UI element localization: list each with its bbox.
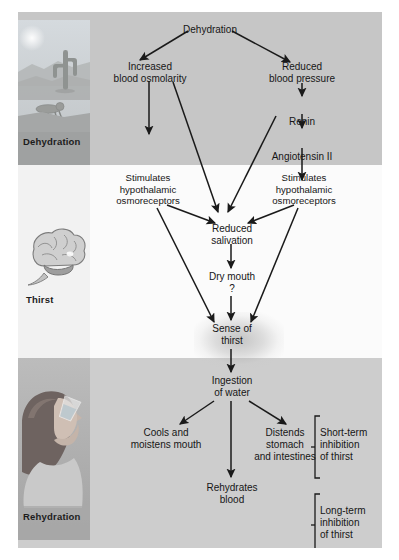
node-distends-stomach: Distends stomach and intestines	[248, 427, 322, 463]
node-ingestion-of-water: Ingestion of water	[196, 375, 268, 399]
node-sense-of-thirst: Sense of thirst	[196, 323, 268, 347]
note-long-term-inhibition: Long-term inhibition of thirst	[320, 505, 382, 541]
node-angiotensin-ii: Angiotensin II	[258, 151, 346, 163]
node-rehydrates-blood: Rehydrates blood	[188, 482, 276, 506]
node-stimulates-osmoreceptors-right: Stimulates hypothalamic osmoreceptors	[252, 172, 356, 207]
node-dry-mouth-question: ?	[196, 283, 268, 295]
node-dehydration: Dehydration	[175, 24, 245, 36]
note-short-term-inhibition: Short-term inhibition of thirst	[320, 427, 382, 463]
node-increased-osmolarity: Increased blood osmolarity	[96, 61, 204, 85]
node-renin: Renin	[272, 116, 332, 128]
node-cools-moistens-mouth: Cools and moistens mouth	[110, 427, 222, 451]
flow-diagram-figure: Dehydration Thirst	[18, 12, 382, 548]
node-stimulates-osmoreceptors-left: Stimulates hypothalamic osmoreceptors	[96, 172, 200, 207]
node-dry-mouth: Dry mouth	[196, 271, 268, 283]
node-reduced-blood-pressure: Reduced blood pressure	[248, 61, 356, 85]
node-reduced-salivation: Reduced salivation	[196, 223, 268, 247]
